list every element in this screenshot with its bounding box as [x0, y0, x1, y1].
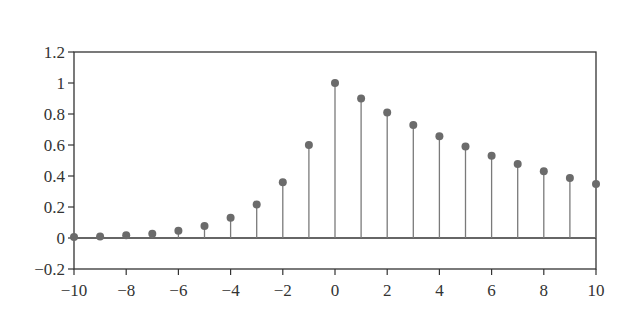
- y-tick-label: 0.2: [44, 198, 65, 217]
- stem-marker: [488, 152, 496, 160]
- stem-marker: [70, 233, 78, 241]
- x-tick-label: −2: [274, 281, 292, 300]
- x-tick-label: −10: [61, 281, 88, 300]
- stem-marker: [435, 132, 443, 140]
- y-tick-label: 1: [57, 74, 66, 93]
- y-tick-label: 0.4: [44, 167, 66, 186]
- stem-marker: [201, 222, 209, 230]
- stem-marker: [253, 201, 261, 209]
- x-tick-label: −6: [169, 281, 187, 300]
- x-tick-label: −8: [117, 281, 135, 300]
- stem-marker: [592, 180, 600, 188]
- stem-marker: [331, 79, 339, 87]
- stem-marker: [514, 160, 522, 168]
- stem-plot: −0.200.20.40.60.811.2 −10−8−6−4−20246810: [0, 0, 630, 319]
- stem-marker: [174, 227, 182, 235]
- stem-marker: [279, 178, 287, 186]
- stem-marker: [148, 230, 156, 238]
- y-axis: −0.200.20.40.60.811.2: [34, 43, 74, 279]
- stem-marker: [122, 231, 130, 239]
- y-tick-label: −0.2: [34, 260, 65, 279]
- stem-marker: [383, 108, 391, 116]
- stem-marker: [305, 141, 313, 149]
- stem-marker: [96, 232, 104, 240]
- stem-marker: [409, 121, 417, 129]
- x-tick-label: 4: [435, 281, 444, 300]
- y-tick-label: 1.2: [44, 43, 65, 62]
- x-axis: −10−8−6−4−20246810: [61, 269, 605, 300]
- stem-marker: [227, 214, 235, 222]
- x-tick-label: 0: [331, 281, 340, 300]
- x-tick-label: 2: [383, 281, 392, 300]
- x-tick-label: 10: [588, 281, 605, 300]
- x-tick-label: 6: [487, 281, 496, 300]
- x-tick-label: 8: [540, 281, 549, 300]
- y-tick-label: 0.6: [44, 136, 65, 155]
- stem-marker: [566, 174, 574, 182]
- stem-marker: [462, 143, 470, 151]
- x-tick-label: −4: [222, 281, 241, 300]
- y-tick-label: 0.8: [44, 105, 65, 124]
- y-tick-label: 0: [57, 229, 66, 248]
- stem-marker: [357, 95, 365, 103]
- stem-marker: [540, 167, 548, 175]
- data-series: [70, 79, 600, 241]
